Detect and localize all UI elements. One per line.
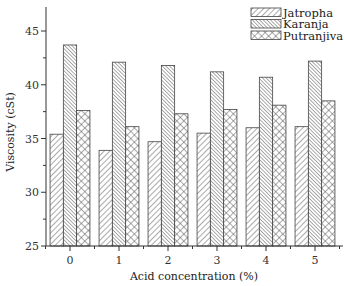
x-axis-label: Acid concentration (%)	[129, 270, 258, 283]
bar-karanja-5	[308, 61, 321, 246]
x-tick-label: 0	[67, 254, 74, 267]
legend-swatch-karanja	[251, 20, 281, 29]
x-tick-label: 4	[263, 254, 270, 267]
legend-swatch-jatropha	[251, 8, 281, 17]
bars-group	[50, 45, 335, 246]
y-tick-label: 45	[25, 25, 39, 38]
bar-jatropha-1	[99, 150, 112, 246]
bar-jatropha-3	[197, 133, 210, 246]
bar-karanja-1	[112, 62, 125, 246]
bar-karanja-4	[259, 77, 272, 246]
bar-jatropha-4	[246, 128, 259, 246]
bar-putranjiva-0	[77, 111, 90, 246]
x-tick-label: 3	[214, 254, 221, 267]
legend-swatch-putranjiva	[251, 31, 281, 40]
legend: JatrophaKaranjaPutranjiva	[251, 6, 343, 43]
bar-jatropha-0	[50, 134, 63, 246]
bar-jatropha-2	[148, 142, 161, 246]
y-tick-label: 40	[25, 79, 39, 92]
bar-putranjiva-3	[224, 109, 237, 246]
x-tick-label: 5	[312, 254, 319, 267]
bar-putranjiva-4	[273, 105, 286, 246]
y-tick-label: 25	[25, 240, 39, 253]
bar-karanja-3	[210, 72, 223, 246]
x-tick-label: 1	[116, 254, 123, 267]
bar-jatropha-5	[295, 127, 308, 246]
y-tick-label: 30	[25, 186, 39, 199]
y-axis-label: Viscosity (cSt)	[4, 92, 17, 173]
bar-putranjiva-1	[126, 127, 139, 246]
x-tick-label: 2	[165, 254, 172, 267]
y-tick-label: 35	[25, 133, 39, 146]
legend-label-putranjiva: Putranjiva	[283, 29, 343, 43]
bar-putranjiva-5	[322, 101, 335, 246]
bar-putranjiva-2	[175, 114, 188, 246]
bar-karanja-0	[63, 45, 76, 246]
bar-karanja-2	[161, 65, 174, 246]
viscosity-bar-chart: 2530354045012345 JatrophaKaranjaPutranji…	[0, 0, 345, 286]
